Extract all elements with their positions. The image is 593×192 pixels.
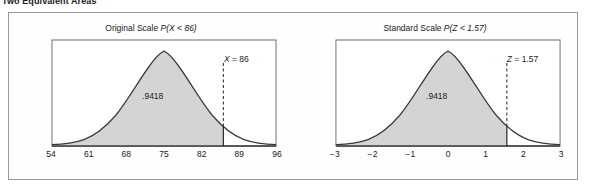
tick-label: 82	[197, 149, 206, 159]
tick-label: −1	[405, 149, 415, 159]
chart-title-original: Original Scale P(X < 86)	[9, 23, 293, 33]
cutoff-val-standard: 1.57	[522, 54, 539, 64]
tick-label: −3	[330, 149, 340, 159]
cutoff-var-original: X	[224, 54, 230, 64]
figure-panel: Original Scale P(X < 86)	[8, 12, 578, 180]
chart-title-standard-text: Standard Scale	[383, 23, 443, 33]
tick-label: 54	[46, 149, 55, 159]
tick-label: 89	[235, 149, 244, 159]
tick-label: 3	[559, 149, 564, 159]
cutoff-label-original: X = 86	[224, 54, 249, 64]
chart-title-original-text: Original Scale	[105, 23, 160, 33]
tick-label: 68	[122, 149, 131, 159]
chart-title-original-math: P(X < 86)	[161, 23, 197, 33]
plot-area-original: .9418 X = 86	[51, 39, 277, 149]
chart-original-scale: Original Scale P(X < 86)	[9, 13, 293, 179]
figure-heading: Two Equivalent Areas	[2, 0, 97, 6]
area-label-standard: .9418	[426, 91, 447, 101]
cutoff-var-standard: Z	[507, 54, 512, 64]
cutoff-eq-original: =	[232, 54, 237, 64]
chart-title-standard: Standard Scale P(Z < 1.57)	[293, 23, 577, 33]
plot-area-standard: .9418 Z = 1.57	[335, 39, 561, 149]
tick-label: 0	[446, 149, 451, 159]
area-label-original: .9418	[142, 91, 163, 101]
x-axis-ticks-standard: −3 −2 −1 0 1 2 3	[335, 149, 561, 163]
chart-standard-scale: Standard Scale P(Z < 1.57) .9418 Z = 1.5…	[293, 13, 577, 179]
tick-label: 96	[272, 149, 281, 159]
cutoff-eq-standard: =	[514, 54, 519, 64]
tick-label: 2	[521, 149, 526, 159]
charts-row: Original Scale P(X < 86)	[9, 13, 577, 179]
tick-label: 75	[159, 149, 168, 159]
cutoff-label-standard: Z = 1.57	[507, 54, 538, 64]
x-axis-ticks-original: 54 61 68 75 82 89 96	[51, 149, 277, 163]
tick-label: 61	[84, 149, 93, 159]
tick-label: 1	[483, 149, 488, 159]
tick-label: −2	[368, 149, 378, 159]
chart-title-standard-math: P(Z < 1.57)	[444, 23, 487, 33]
cutoff-val-original: 86	[239, 54, 248, 64]
